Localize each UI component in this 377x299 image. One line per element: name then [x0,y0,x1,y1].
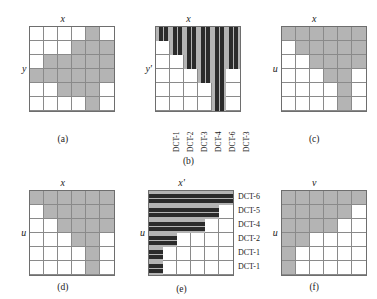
cell-r6-c5 [205,261,219,275]
cell-r1-c2 [44,191,58,205]
cell-r3-c3 [58,55,72,69]
cell-r1-c4 [198,27,212,41]
cell-r4-c3 [177,233,191,247]
cell-r3-c6 [100,219,114,233]
cell-r3-c1 [30,55,44,69]
cell-r4-c1 [282,69,296,83]
cell-r3-c1 [282,55,296,69]
cell-r1-c1 [149,191,163,205]
panel-c-y-label: u [262,64,281,74]
cell-r4-c4 [324,233,338,247]
panel-c-grid [281,26,367,112]
cell-r4-c2 [296,69,310,83]
cell-r3-c6 [219,219,233,233]
cell-r3-c5 [338,219,352,233]
cell-r4-c3 [310,69,324,83]
cell-r4-c1 [149,233,163,247]
cell-r3-c1 [156,55,170,69]
cell-r6-c3 [310,261,324,275]
cell-r1-c1 [156,27,170,41]
cell-r5-c1 [30,83,44,97]
cell-r4-c5 [338,233,352,247]
cell-r6-c1 [30,261,44,275]
cell-r2-c5 [86,41,100,55]
cell-r6-c6 [352,97,366,111]
cell-r6-c4 [72,97,86,111]
cell-r3-c3 [58,219,72,233]
panel-f-y-label: u [262,228,281,238]
cell-r6-c6 [100,97,114,111]
cell-r6-c2 [44,97,58,111]
cell-r5-c4 [324,247,338,261]
panel-f: v u (f) [251,166,377,299]
cell-r4-c5 [86,69,100,83]
cell-r2-c3 [58,41,72,55]
cell-r3-c2 [170,55,184,69]
cell-r3-c6 [352,219,366,233]
panel-e-caption: (e) [176,284,187,294]
cell-r2-c4 [72,205,86,219]
cell-r6-c5 [86,97,100,111]
panel-b-tick-6: DCT-3 [242,131,251,152]
panel-f-x-label: v [312,178,316,190]
cell-r2-c6 [219,205,233,219]
cell-r6-c2 [296,261,310,275]
cell-r6-c4 [72,261,86,275]
cell-r2-c1 [282,41,296,55]
panel-c: x u (c) [251,0,377,166]
cell-r6-c4 [324,261,338,275]
cell-r3-c2 [163,219,177,233]
cell-r5-c5 [205,247,219,261]
cell-r6-c1 [30,97,44,111]
cell-r3-c4 [324,55,338,69]
cell-r5-c6 [100,247,114,261]
cell-r5-c6 [352,83,366,97]
cell-r4-c4 [72,69,86,83]
cell-r2-c3 [184,41,198,55]
cell-r3-c5 [205,219,219,233]
cell-r2-c5 [205,205,219,219]
panel-d: x u (d) [0,166,126,299]
cell-r3-c2 [44,55,58,69]
panel-b-tick-5: DCT-6 [228,131,237,152]
cell-r4-c4 [198,69,212,83]
cell-r6-c1 [282,97,296,111]
cell-r2-c5 [338,205,352,219]
cell-r2-c1 [156,41,170,55]
cell-r2-c6 [226,41,240,55]
cell-r3-c4 [72,219,86,233]
cell-r2-c6 [100,205,114,219]
cell-r6-c6 [100,261,114,275]
cell-r5-c4 [198,83,212,97]
figure-panel-grid: x y (a) x y' DCT-1DCT-2DCT-3DCT-4DCT-6DC… [0,0,377,299]
cell-r1-c3 [310,191,324,205]
panel-c-x-label: x [312,14,316,26]
cell-r1-c6 [219,191,233,205]
panel-b-tick-2: DCT-2 [186,131,195,152]
cell-r6-c6 [219,261,233,275]
cell-r5-c4 [72,83,86,97]
cell-r5-c4 [191,247,205,261]
cell-r3-c5 [212,55,226,69]
cell-r2-c5 [338,41,352,55]
cell-r3-c6 [226,55,240,69]
cell-r1-c4 [72,191,86,205]
cell-r3-c4 [198,55,212,69]
cell-r2-c2 [163,205,177,219]
cell-r2-c3 [177,205,191,219]
cell-r5-c5 [338,83,352,97]
cell-r1-c5 [338,27,352,41]
cell-r3-c1 [282,219,296,233]
cell-r4-c4 [324,69,338,83]
cell-r1-c5 [86,191,100,205]
cell-r3-c3 [184,55,198,69]
panel-e: x' u DCT-6DCT-5DCT-4DCT-2DCT-1DCT-1 (e) [126,166,252,299]
cell-r1-c1 [282,191,296,205]
cell-r6-c2 [44,261,58,275]
panel-b-tick-3: DCT-3 [200,131,209,152]
cell-r2-c2 [296,205,310,219]
cell-r1-c1 [282,27,296,41]
cell-r4-c3 [310,233,324,247]
cell-r6-c5 [338,97,352,111]
panel-d-y-label: u [10,228,29,238]
